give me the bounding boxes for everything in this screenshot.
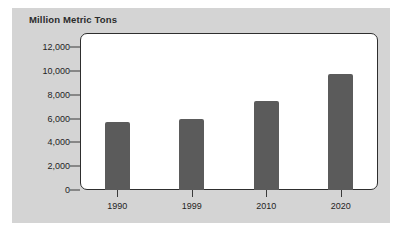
- x-axis-tick-label: 2020: [331, 201, 351, 211]
- chart-title: Million Metric Tons: [29, 14, 117, 25]
- y-axis-tick-label: 4,000: [18, 137, 70, 147]
- y-axis-tick-label: 12,000: [18, 42, 70, 52]
- y-axis-tick-label: 10,000: [18, 66, 70, 76]
- y-axis-tick-label: 6,000: [18, 114, 70, 124]
- bar: [254, 101, 279, 190]
- bar: [179, 119, 204, 190]
- y-axis-tick-label: 8,000: [18, 90, 70, 100]
- y-axis-tick-label: 2,000: [18, 161, 70, 171]
- bar: [328, 74, 353, 190]
- y-axis-tick-mark: [70, 142, 80, 143]
- x-axis-tick-mark: [266, 190, 267, 197]
- x-axis-tick-mark: [117, 190, 118, 197]
- x-axis-tick-mark: [341, 190, 342, 197]
- x-axis-tick-label: 1999: [182, 201, 202, 211]
- y-axis-tick-mark: [70, 70, 80, 71]
- y-axis-tick-mark: [70, 47, 80, 48]
- x-axis-tick-label: 2010: [256, 201, 276, 211]
- y-axis-tick-mark: [70, 94, 80, 95]
- bar: [105, 122, 130, 190]
- x-axis-tick-mark: [192, 190, 193, 197]
- y-axis-tick-mark: [70, 166, 80, 167]
- chart-panel: Million Metric Tons 02,0004,0006,0008,00…: [12, 8, 390, 223]
- y-axis-tick-label: 0: [18, 185, 70, 195]
- x-axis-tick-label: 1990: [107, 201, 127, 211]
- y-axis-tick-mark: [70, 118, 80, 119]
- chart-figure: Million Metric Tons 02,0004,0006,0008,00…: [0, 0, 403, 239]
- y-axis-tick-mark: [70, 190, 80, 191]
